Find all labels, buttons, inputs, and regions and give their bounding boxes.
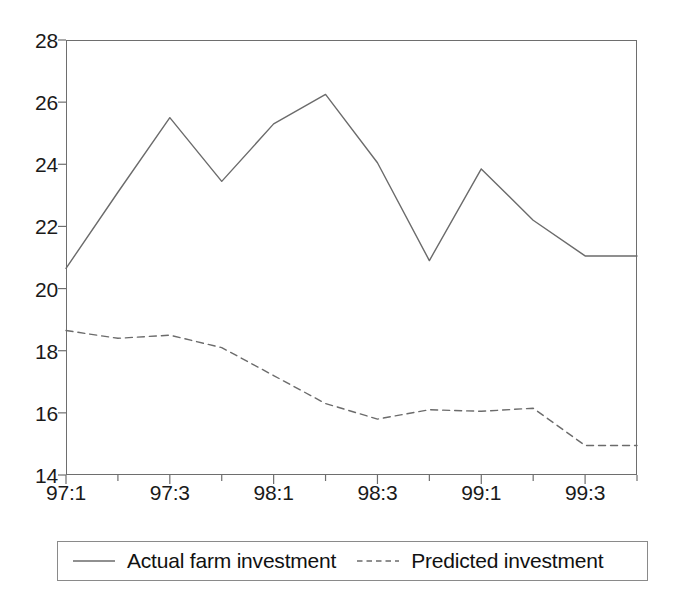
y-tick-label: 18 (12, 340, 58, 361)
y-tick-marks (58, 40, 66, 475)
y-tick-label: 16 (12, 402, 58, 423)
y-tick-label: 24 (12, 154, 58, 175)
x-tick-label: 98:3 (357, 482, 397, 503)
y-tick-label: 26 (12, 92, 58, 113)
x-tick-label: 97:3 (150, 482, 190, 503)
plot-area-frame (66, 40, 637, 475)
x-tick-label: 98:1 (254, 482, 294, 503)
chart-legend: Actual farm investment Predicted investm… (57, 541, 648, 581)
legend-solid-line-icon (72, 554, 116, 568)
x-tick-label: 99:3 (565, 482, 605, 503)
y-tick-label: 22 (12, 216, 58, 237)
legend-entry-predicted-investment: Predicted investment (356, 542, 603, 580)
legend-label-predicted-investment: Predicted investment (411, 549, 603, 573)
y-axis-tick-labels: 1416182022242628 (0, 0, 58, 605)
legend-label-actual-farm-investment: Actual farm investment (127, 549, 336, 573)
x-axis-tick-labels: 97:197:398:198:399:199:3 (0, 482, 679, 512)
x-tick-label: 97:1 (46, 482, 86, 503)
y-tick-label: 20 (12, 278, 58, 299)
y-tick-label: 28 (12, 30, 58, 51)
legend-entry-actual-farm-investment: Actual farm investment (72, 542, 336, 580)
chart-figure: 1416182022242628 97:197:398:198:399:199:… (0, 0, 679, 605)
x-tick-label: 99:1 (461, 482, 501, 503)
legend-dashed-line-icon (356, 554, 400, 568)
